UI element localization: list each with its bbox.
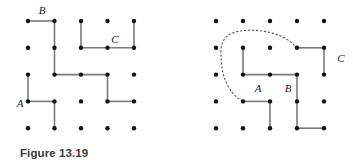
- lattice-dot: [132, 126, 136, 130]
- vertex-label-c: C: [111, 33, 119, 45]
- lattice-dot: [268, 126, 272, 130]
- left-grid-diagram: BCA: [16, 4, 137, 130]
- lattice-dot: [268, 19, 272, 23]
- lattice-dot: [322, 46, 326, 50]
- right-grid-diagram: CAB: [214, 19, 346, 131]
- lattice-dot: [26, 99, 30, 103]
- lattice-dot: [79, 126, 83, 130]
- lattice-dot: [52, 72, 56, 76]
- lattice-dot: [105, 46, 109, 50]
- figure-container: BCACAB Figure 13.19: [0, 0, 353, 168]
- lattice-dot: [26, 126, 30, 130]
- lattice-dot: [295, 46, 299, 50]
- figure-svg-canvas: BCACAB: [0, 0, 353, 168]
- vertex-label-c: C: [337, 52, 345, 64]
- lattice-dot: [214, 19, 218, 23]
- lattice-dot: [105, 126, 109, 130]
- lattice-dot: [79, 46, 83, 50]
- lattice-dot: [214, 72, 218, 76]
- lattice-dot: [241, 72, 245, 76]
- lattice-dot: [295, 19, 299, 23]
- lattice-dot: [79, 99, 83, 103]
- lattice-dot: [132, 72, 136, 76]
- lattice-dot: [295, 72, 299, 76]
- lattice-dot: [268, 72, 272, 76]
- lattice-dot: [132, 19, 136, 23]
- vertex-label-b: B: [285, 82, 292, 94]
- lattice-dot: [105, 72, 109, 76]
- vertex-label-a: A: [254, 82, 262, 94]
- lattice-dot: [322, 126, 326, 130]
- lattice-dot: [214, 126, 218, 130]
- lattice-dot: [52, 99, 56, 103]
- lattice-dot: [295, 126, 299, 130]
- lattice-dot: [79, 19, 83, 23]
- lattice-dot: [214, 99, 218, 103]
- lattice-dot: [241, 99, 245, 103]
- lattice-dot: [295, 99, 299, 103]
- lattice-dot: [268, 46, 272, 50]
- lattice-dot: [322, 19, 326, 23]
- lattice-dot: [214, 46, 218, 50]
- lattice-dot: [241, 46, 245, 50]
- figure-caption: Figure 13.19: [20, 147, 88, 159]
- lattice-dot: [132, 99, 136, 103]
- lattice-dot: [105, 99, 109, 103]
- lattice-dot: [52, 19, 56, 23]
- lattice-dot: [268, 99, 272, 103]
- lattice-dot: [26, 46, 30, 50]
- lattice-dot: [241, 126, 245, 130]
- lattice-dot: [322, 99, 326, 103]
- vertex-label-a: A: [16, 97, 24, 109]
- lattice-dot: [105, 19, 109, 23]
- lattice-dot: [52, 46, 56, 50]
- lattice-dot: [79, 72, 83, 76]
- lattice-dot: [52, 126, 56, 130]
- lattice-dot: [132, 46, 136, 50]
- lattice-dot: [322, 72, 326, 76]
- lattice-dot: [241, 19, 245, 23]
- vertex-label-b: B: [39, 4, 46, 16]
- panels-layer: BCACAB: [16, 4, 346, 130]
- lattice-dot: [26, 19, 30, 23]
- lattice-dot: [26, 72, 30, 76]
